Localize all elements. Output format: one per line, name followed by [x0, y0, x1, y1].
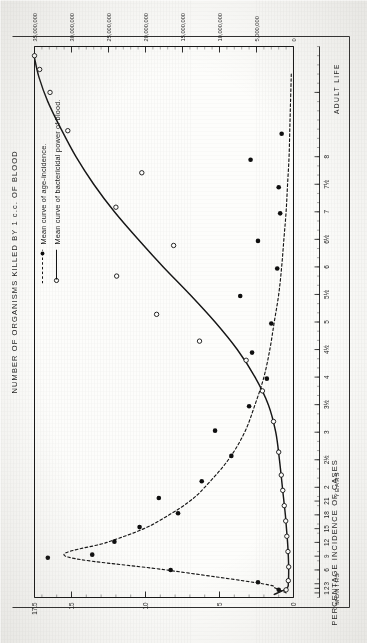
series-age-incidence — [45, 74, 291, 593]
svg-text:9: 9 — [322, 553, 329, 557]
svg-text:0: 0 — [290, 38, 296, 41]
legend-key-open-circle-solid — [51, 249, 61, 283]
svg-text:21: 21 — [322, 497, 329, 505]
svg-text:2½: 2½ — [322, 454, 329, 464]
svg-text:6: 6 — [322, 264, 329, 268]
svg-text:7: 7 — [322, 209, 329, 213]
legend-label-bactericidal-power: Mean curve of bactericidal power of bloo… — [52, 99, 61, 244]
right-axis-title: NUMBER OF ORGANISMS KILLED BY 1 c.c. OF … — [10, 150, 18, 393]
svg-text:7½: 7½ — [322, 179, 329, 189]
legend-item-age-incidence: Mean curve of age-incidence. — [36, 99, 48, 283]
svg-text:ADULT LIFE: ADULT LIFE — [332, 63, 339, 114]
svg-text:20,000,000: 20,000,000 — [142, 13, 148, 41]
svg-text:18: 18 — [322, 510, 329, 518]
svg-text:6: 6 — [322, 567, 329, 571]
svg-text:3: 3 — [322, 581, 329, 585]
svg-text:12: 12 — [322, 538, 329, 546]
svg-text:5,000,000: 5,000,000 — [253, 16, 259, 41]
svg-text:4½: 4½ — [322, 344, 329, 354]
svg-text:15: 15 — [67, 602, 74, 610]
legend-item-bactericidal-power: Mean curve of bactericidal power of bloo… — [50, 99, 62, 283]
svg-text:0: 0 — [289, 602, 296, 606]
svg-text:1: 1 — [322, 590, 329, 594]
chart-legend: Mean curve of age-incidence. Mean curve … — [36, 99, 64, 283]
plot-canvas: 123691215182122½33½44½55½66½77½8MONTHSYE… — [0, 0, 367, 643]
svg-text:30,000,000: 30,000,000 — [68, 13, 74, 41]
svg-text:5: 5 — [322, 319, 329, 323]
series-bactericidal-power — [32, 53, 291, 594]
svg-text:3: 3 — [322, 429, 329, 433]
svg-text:3½: 3½ — [322, 399, 329, 409]
svg-text:15,000,000: 15,000,000 — [179, 13, 185, 41]
svg-text:8: 8 — [322, 154, 329, 158]
left-axis-title: PERCENTAGE INCIDENCE OF CASES — [330, 459, 338, 625]
svg-text:2: 2 — [322, 485, 329, 489]
svg-text:5½: 5½ — [322, 289, 329, 299]
svg-text:15: 15 — [322, 524, 329, 532]
rotated-page: 123691215182122½33½44½55½66½77½8MONTHSYE… — [0, 0, 367, 643]
svg-text:17.5: 17.5 — [30, 602, 37, 615]
svg-text:35,000,000: 35,000,000 — [31, 13, 37, 41]
svg-text:10: 10 — [141, 602, 148, 610]
chart-figure: 123691215182122½33½44½55½66½77½8MONTHSYE… — [0, 0, 367, 643]
svg-text:2: 2 — [322, 586, 329, 590]
svg-text:4: 4 — [322, 374, 329, 378]
svg-text:6½: 6½ — [322, 234, 329, 244]
svg-text:5: 5 — [215, 602, 222, 606]
legend-label-age-incidence: Mean curve of age-incidence. — [38, 143, 47, 244]
legend-key-filled-dot-dashed — [37, 249, 47, 283]
svg-text:25,000,000: 25,000,000 — [105, 13, 111, 41]
svg-text:10,000,000: 10,000,000 — [216, 13, 222, 41]
